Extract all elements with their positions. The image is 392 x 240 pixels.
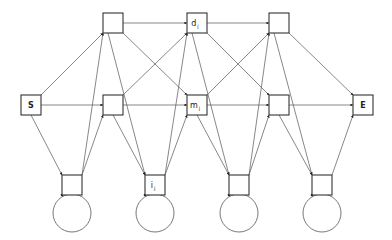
transition-edge	[113, 115, 145, 175]
transition-edge	[289, 33, 353, 95]
insert-node-i2	[229, 175, 249, 195]
transition-edge	[249, 33, 269, 175]
transition-edge	[165, 115, 187, 175]
transition-edge	[165, 33, 187, 175]
transition-edge	[197, 115, 229, 175]
profile-hmm-diagram: SEdjmjij	[0, 0, 392, 240]
self-loop-0	[53, 194, 91, 232]
self-loops	[53, 194, 341, 232]
start-node-label: S	[28, 101, 34, 110]
self-loop-2	[220, 194, 258, 232]
transition-edge	[279, 115, 312, 175]
delete-node-d3-box	[269, 13, 289, 33]
insert-node-i3-box	[312, 175, 332, 195]
match-node-m3-box	[269, 95, 289, 115]
transition-edge	[41, 33, 103, 95]
transition-edge	[249, 115, 269, 175]
delete-node-d3	[269, 13, 289, 33]
match-node-mj: mj	[187, 95, 207, 115]
transition-edge	[82, 115, 103, 175]
transition-edge	[82, 33, 103, 175]
end-node: E	[353, 95, 373, 115]
insert-node-i3	[312, 175, 332, 195]
insert-node-i0-box	[62, 175, 82, 195]
match-node-m1	[103, 95, 123, 115]
delete-node-d1-box	[103, 13, 123, 33]
self-loop-1	[136, 194, 174, 232]
insert-node-i2-box	[229, 175, 249, 195]
self-loop-3	[303, 194, 341, 232]
match-node-m1-box	[103, 95, 123, 115]
delete-node-dj: dj	[187, 13, 207, 33]
start-node: S	[21, 95, 41, 115]
match-node-m3	[269, 95, 289, 115]
transition-edge	[31, 115, 62, 175]
transition-edge	[332, 115, 353, 175]
insert-node-ij: ij	[145, 175, 165, 195]
delete-node-d1	[103, 13, 123, 33]
nodes: SEdjmjij	[21, 13, 373, 195]
insert-node-i0	[62, 175, 82, 195]
end-node-label: E	[360, 101, 365, 110]
